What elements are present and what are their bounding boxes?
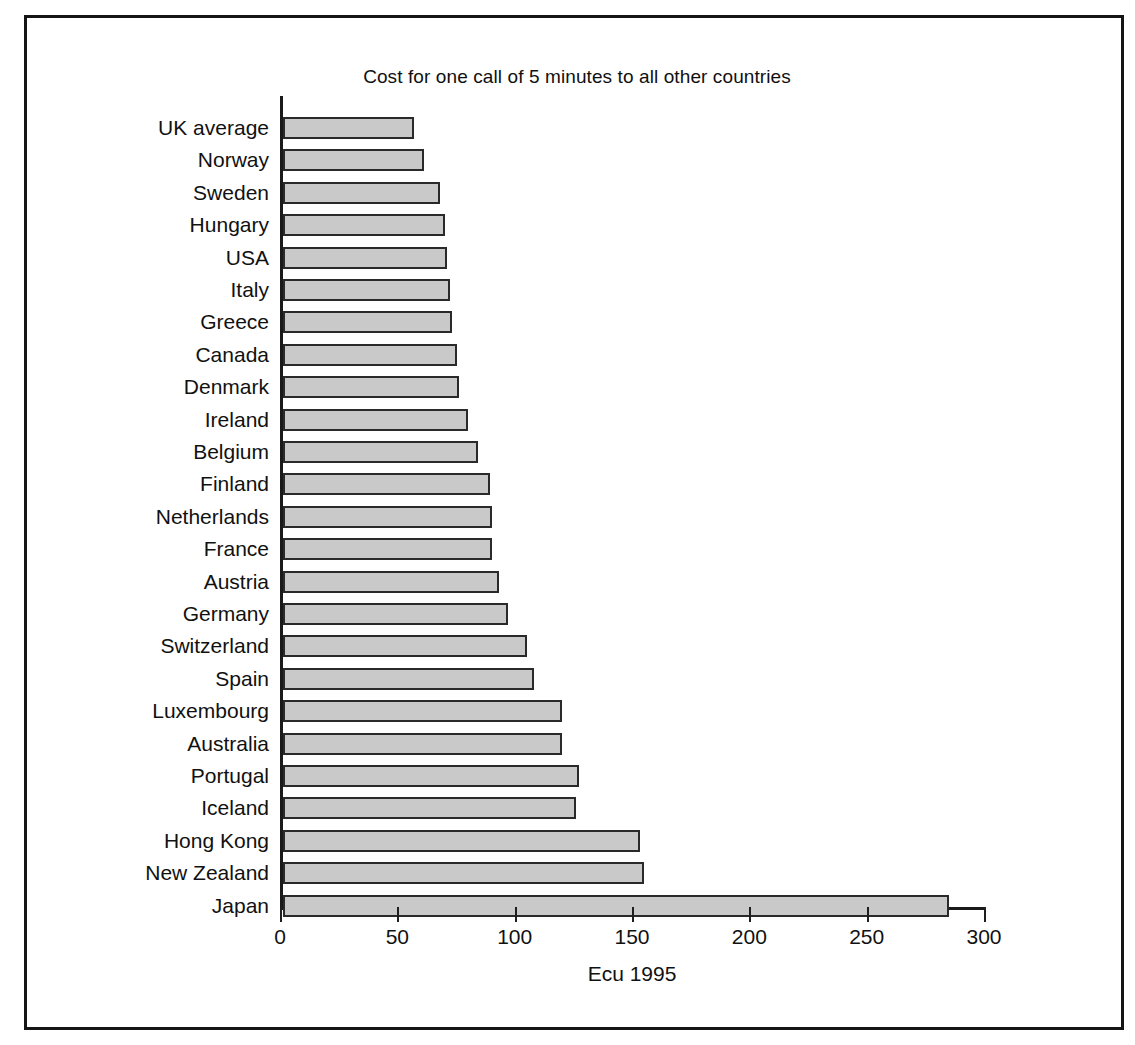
category-label: Hungary <box>190 212 269 238</box>
category-label: Norway <box>198 147 269 173</box>
bar <box>283 311 452 333</box>
category-label: Portugal <box>191 763 269 789</box>
x-axis-tick-label: 300 <box>966 924 1001 950</box>
category-label: Switzerland <box>160 633 269 659</box>
category-label: Spain <box>215 666 269 692</box>
category-label: Japan <box>212 893 269 919</box>
bar <box>283 765 579 787</box>
category-label: USA <box>226 245 269 271</box>
bar <box>283 279 450 301</box>
bar <box>283 538 492 560</box>
bar <box>283 862 644 884</box>
x-axis-tick-label: 200 <box>732 924 767 950</box>
bar <box>283 409 468 431</box>
category-label: Ireland <box>205 407 269 433</box>
bar <box>283 635 527 657</box>
x-axis-tick <box>867 907 869 922</box>
x-axis-tick-label: 0 <box>274 924 286 950</box>
bar <box>283 214 445 236</box>
x-axis-tick <box>515 907 517 922</box>
chart-title: Cost for one call of 5 minutes to all ot… <box>27 66 1127 88</box>
x-axis-tick-label: 100 <box>497 924 532 950</box>
x-axis-tick <box>749 907 751 922</box>
x-axis-tick <box>280 907 282 922</box>
x-axis-title: Ecu 1995 <box>280 962 984 986</box>
category-label: Australia <box>187 731 269 757</box>
category-label: Sweden <box>193 180 269 206</box>
bar <box>283 700 562 722</box>
category-label: France <box>204 536 269 562</box>
category-label: Denmark <box>184 374 269 400</box>
category-label: Iceland <box>201 795 269 821</box>
category-label: Greece <box>200 309 269 335</box>
category-label: Belgium <box>193 439 269 465</box>
x-axis-tick <box>984 907 986 922</box>
bar <box>283 117 414 139</box>
category-label: New Zealand <box>145 860 269 886</box>
bar <box>283 830 640 852</box>
x-axis-tick-label: 50 <box>386 924 409 950</box>
category-label: Canada <box>195 342 269 368</box>
chart-page: Cost for one call of 5 minutes to all ot… <box>0 0 1135 1045</box>
bar <box>283 571 499 593</box>
bar <box>283 182 440 204</box>
bar <box>283 376 459 398</box>
x-axis-tick <box>632 907 634 922</box>
x-axis-tick-label: 150 <box>614 924 649 950</box>
plot-area: UK averageNorwaySwedenHungaryUSAItalyGre… <box>280 96 990 916</box>
bar <box>283 603 508 625</box>
figure-frame: Cost for one call of 5 minutes to all ot… <box>24 15 1124 1030</box>
category-label: UK average <box>158 115 269 141</box>
x-axis-tick <box>397 907 399 922</box>
bar <box>283 247 447 269</box>
bar <box>283 506 492 528</box>
bar <box>283 797 576 819</box>
category-label: Austria <box>204 569 269 595</box>
bar <box>283 441 478 463</box>
category-label: Finland <box>200 471 269 497</box>
x-axis-tick-label: 250 <box>849 924 884 950</box>
category-label: Italy <box>230 277 269 303</box>
bar <box>283 733 562 755</box>
bar <box>283 668 534 690</box>
bar <box>283 473 490 495</box>
category-label: Germany <box>183 601 269 627</box>
category-label: Luxembourg <box>152 698 269 724</box>
category-label: Hong Kong <box>164 828 269 854</box>
bar <box>283 149 424 171</box>
bar <box>283 344 457 366</box>
bar <box>283 895 949 917</box>
category-label: Netherlands <box>156 504 269 530</box>
